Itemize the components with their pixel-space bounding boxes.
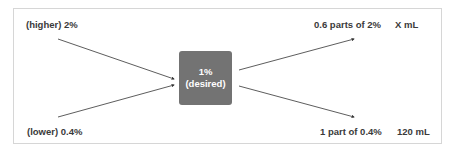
desired-percent: 1% [199,66,213,78]
arrow-desired-to-bottom-parts [239,86,354,117]
lower-concentration-label: (lower) 0.4% [27,126,82,137]
top-volume-label: X mL [395,19,418,30]
arrow-desired-to-top-parts [239,39,354,70]
desired-caption: (desired) [185,78,225,90]
higher-concentration-label: (higher) 2% [26,19,78,30]
arrow-higher-to-desired [58,39,174,79]
desired-concentration-box: 1% (desired) [179,51,232,105]
bottom-volume-label: 120 mL [397,126,430,137]
bottom-parts-label: 1 part of 0.4% [320,126,382,137]
arrow-lower-to-desired [58,85,174,117]
top-parts-label: 0.6 parts of 2% [314,19,381,30]
